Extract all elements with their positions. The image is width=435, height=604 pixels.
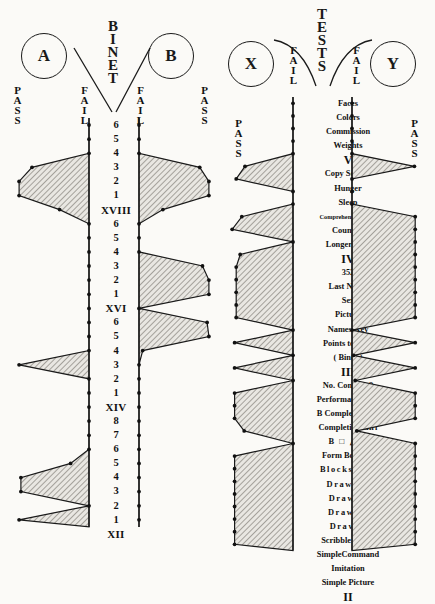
profile-vertex [233,467,237,471]
profile-vertex [137,236,141,240]
profile-vertex [30,165,34,169]
profile-vertex [291,442,295,446]
profile-vertex [350,114,354,118]
profile-vertex [137,307,141,311]
profile-vertex [350,139,354,143]
profile-vertex [137,123,141,127]
profile-vertex [161,208,165,212]
profile-vertex [291,353,295,357]
profile-vertex [87,349,91,353]
profile-vertex [242,429,246,433]
profile-vertex [69,462,73,466]
profile-trace-x [230,97,295,551]
profile-vertex [17,518,21,522]
profile-vertex [413,467,417,471]
profile-vertex [350,127,354,131]
profile-vertex [413,278,417,282]
profile-vertex [243,164,247,168]
profile-vertex [87,278,91,282]
profile-vertex [230,227,234,231]
profile-vertex [240,215,244,219]
profile-vertex [58,208,62,212]
profile-vertex [291,190,295,194]
profile-vertex [87,236,91,240]
test-item-row: Simple Picture [296,576,400,590]
profile-vertex [350,202,354,206]
profile-vertex [413,290,417,294]
profile-vertex [413,505,417,509]
profile-vertex [19,490,23,494]
profile-vertex [234,278,238,282]
profile-vertex [137,433,141,437]
profile-vertex [137,518,141,522]
profile-vertex [413,442,417,446]
profile-vertex [413,366,417,370]
profile-vertex [137,405,141,409]
profile-area [139,118,209,527]
profile-vertex [137,476,141,480]
profile-vertex [233,479,237,483]
profile-vertex [234,316,238,320]
profile-vertex [87,250,91,254]
profile-vertex [87,377,91,381]
profile-vertex [234,290,238,294]
profile-vertex [413,542,417,546]
profile-vertex [87,405,91,409]
profile-vertex [17,194,21,198]
profile-vertex [207,292,211,296]
leader-lines-tests [274,40,372,86]
profile-vertex [413,265,417,269]
profile-vertex [350,190,354,194]
profile-vertex [350,177,354,181]
profile-vertex [350,152,354,156]
profile-vertex [233,404,237,408]
profile-vertex [137,447,141,451]
profile-trace-b [137,118,211,527]
profile-vertex [233,416,237,420]
profile-vertex [87,222,91,226]
profile-vertex [87,307,91,311]
profile-vertex [87,504,91,508]
profile-vertex [87,419,91,423]
profile-vertex [207,278,211,282]
profile-vertex [87,137,91,141]
profile-vertex [355,429,359,433]
profile-vertex [413,341,417,345]
profile-vertex [413,303,417,307]
profile-vertex [137,363,141,367]
profile-vertex [207,180,211,184]
profile-vertex [233,391,237,395]
profile-vertex [413,164,417,168]
profile-vertex [291,328,295,332]
profile-vertex [291,240,295,244]
profile-vertex [233,505,237,509]
profile-vertex [141,349,145,353]
profile-vertex [353,379,357,383]
profile-vertex [87,433,91,437]
profile-vertex [291,101,295,105]
profile-vertex [137,419,141,423]
profile-vertex [413,479,417,483]
profile-vertex [352,353,356,357]
test-item-row: II [296,590,400,604]
profile-vertex [205,321,209,325]
profile-vertex [198,165,202,169]
profile-area [232,97,293,551]
profile-vertex [87,151,91,155]
profile-vertex [413,215,417,219]
profile-vertex [291,139,295,143]
profile-vertex [207,335,211,339]
profile-vertex [413,517,417,521]
profile-vertex [87,123,91,127]
profile-vertex [207,194,211,198]
profile-vertex [413,530,417,534]
profile-vertex [233,454,237,458]
profile-vertex [137,151,141,155]
profile-vertex [233,366,237,370]
profile-vertex [87,292,91,296]
profile-vertex [291,114,295,118]
profile-vertex [233,542,237,546]
profile-vertex [233,492,237,496]
profile-vertex [201,264,205,268]
